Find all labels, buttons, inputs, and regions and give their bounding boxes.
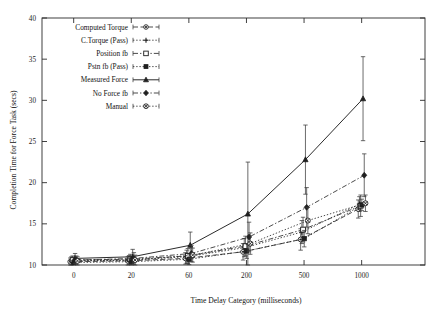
legend-marker bbox=[144, 25, 149, 30]
y-tick-label: 40 bbox=[29, 15, 37, 23]
data-point-marker bbox=[190, 253, 195, 258]
data-point-marker bbox=[305, 218, 310, 223]
chart-figure: 10152025303540 020602005001000 Computed … bbox=[0, 0, 441, 319]
data-point-marker bbox=[133, 258, 138, 263]
legend-marker bbox=[144, 65, 148, 69]
y-tick-label: 25 bbox=[29, 138, 37, 146]
x-tick-label: 0 bbox=[72, 272, 76, 280]
data-point-marker bbox=[248, 241, 253, 246]
legend-label: Measured Force bbox=[81, 75, 128, 84]
data-point-marker bbox=[363, 201, 368, 206]
legend-label: Computed Torque bbox=[75, 23, 128, 32]
y-tick-label: 20 bbox=[29, 179, 37, 187]
y-tick-label: 35 bbox=[29, 56, 37, 64]
legend-label: Manual bbox=[106, 102, 128, 111]
x-tick-label: 60 bbox=[185, 272, 193, 280]
figure-background bbox=[0, 0, 441, 319]
data-point-marker bbox=[301, 227, 306, 232]
data-point-marker bbox=[75, 258, 80, 263]
x-tick-label: 20 bbox=[128, 272, 136, 280]
data-point-marker bbox=[302, 237, 306, 241]
legend-marker bbox=[144, 51, 149, 56]
line-chart-with-error-bars: 10152025303540 020602005001000 Computed … bbox=[0, 0, 441, 319]
legend-label: C.Torque (Pass) bbox=[81, 36, 128, 45]
legend-label: No Force fb bbox=[93, 89, 129, 98]
y-tick-label: 30 bbox=[29, 97, 37, 105]
x-tick-label: 200 bbox=[241, 272, 252, 280]
legend-marker bbox=[144, 104, 149, 109]
legend-label: Position fb bbox=[96, 49, 128, 58]
y-tick-label: 15 bbox=[29, 220, 37, 228]
x-tick-label: 500 bbox=[299, 272, 310, 280]
y-axis-title: Completion Time for Force Task (secs) bbox=[9, 90, 18, 209]
y-tick-label: 10 bbox=[29, 262, 37, 270]
x-axis-title: Time Delay Category (milliseconds) bbox=[191, 296, 302, 305]
legend-label: Pstn fb (Pass) bbox=[88, 62, 129, 71]
x-tick-label: 1000 bbox=[354, 272, 369, 280]
